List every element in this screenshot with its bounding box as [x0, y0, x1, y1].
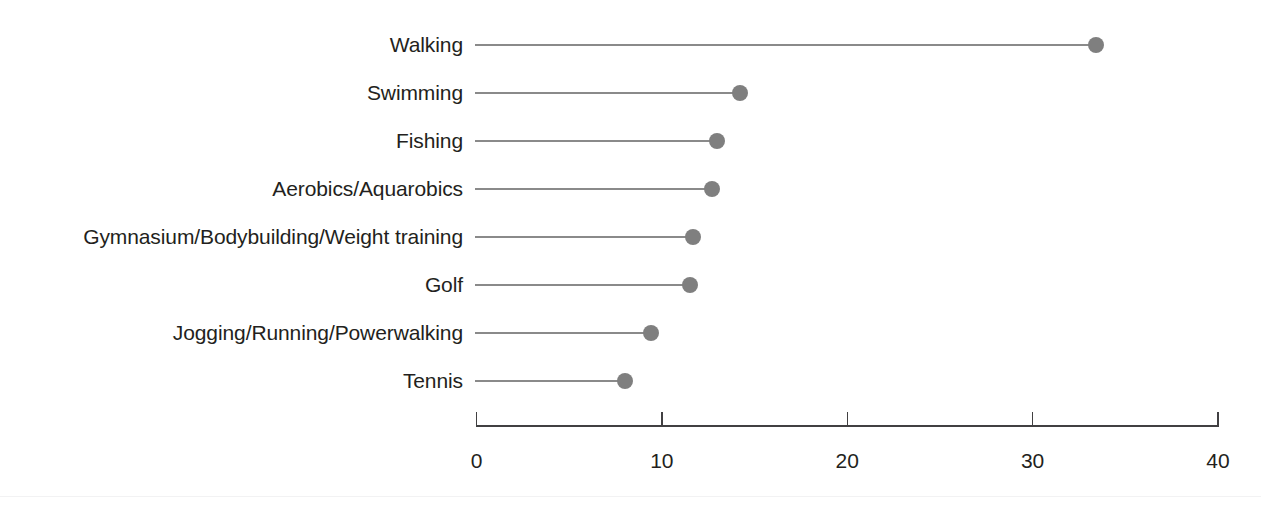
x-axis-tick-label: 0	[437, 450, 517, 471]
x-axis-tick-label: 40	[1178, 450, 1258, 471]
chart-x-axis: 010203040	[0, 0, 1261, 509]
x-axis-tick	[1217, 412, 1219, 425]
x-axis-tick-label: 10	[622, 450, 702, 471]
lollipop-chart: WalkingSwimmingFishingAerobics/Aquarobic…	[0, 0, 1261, 509]
x-axis-tick-label: 20	[807, 450, 887, 471]
x-axis-tick	[847, 412, 849, 425]
x-axis-tick	[661, 412, 663, 425]
x-axis-tick	[476, 412, 478, 425]
x-axis-tick	[1032, 412, 1034, 425]
x-axis-tick-label: 30	[993, 450, 1073, 471]
footer-divider	[0, 496, 1261, 497]
x-axis-line	[476, 425, 1219, 427]
